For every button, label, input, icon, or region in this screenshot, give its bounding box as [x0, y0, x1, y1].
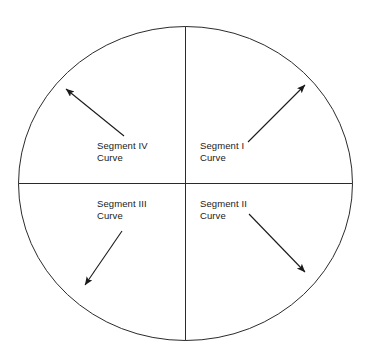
segment-1-label-line1: Segment I [200, 140, 244, 151]
segment-3-label-line1: Segment III [97, 198, 147, 209]
segment-2-label-line1: Segment II [200, 198, 247, 209]
segment-2-label-line2: Curve [200, 210, 247, 222]
segment-4-label-line2: Curve [97, 152, 148, 164]
diagram-canvas [0, 0, 369, 351]
segment-3-label: Segment III Curve [97, 198, 147, 221]
segment-2-label: Segment II Curve [200, 198, 247, 221]
segment-curve-diagram: Segment IV Curve Segment I Curve Segment… [0, 0, 369, 351]
segment-3-label-line2: Curve [97, 210, 147, 222]
segment-1-label: Segment I Curve [200, 140, 244, 163]
segment-1-label-line2: Curve [200, 152, 244, 164]
segment-4-label-line1: Segment IV [97, 140, 148, 151]
segment-4-label: Segment IV Curve [97, 140, 148, 163]
